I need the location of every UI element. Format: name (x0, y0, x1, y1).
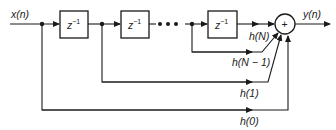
coef-label-hN1: h(N − 1) (232, 56, 270, 68)
ellipsis-dots (158, 22, 178, 26)
input-label: x(n) (10, 8, 29, 20)
delay-block-3: z−1 (208, 11, 237, 38)
output-label: y(n) (302, 8, 321, 20)
svg-text:+: + (282, 18, 288, 30)
summing-junction: + (275, 14, 295, 34)
delay-block-2: z−1 (121, 11, 149, 38)
coef-label-h0: h(0) (240, 115, 259, 127)
coef-label-h1: h(1) (240, 87, 259, 99)
coef-label-hN: h(N) (249, 30, 269, 42)
fir-filter-diagram: x(n) z−1 z−1 z−1 + y(n) h(N) h(N − 1) (0, 0, 336, 130)
delay-block-1: z−1 (60, 11, 88, 38)
